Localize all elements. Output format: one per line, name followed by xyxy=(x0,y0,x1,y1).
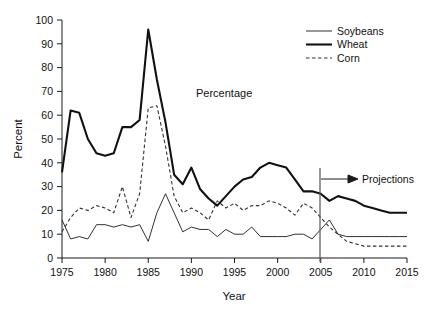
x-tick-label: 1990 xyxy=(180,266,204,278)
y-tick-label: 20 xyxy=(41,204,53,216)
projections-label: Projections xyxy=(362,173,414,185)
y-axis-ticks: 0102030405060708090100 xyxy=(35,14,62,264)
x-tick-label: 1980 xyxy=(93,266,117,278)
y-tick-label: 60 xyxy=(41,109,53,121)
x-axis-ticks: 197519801985199019952000200520102015 xyxy=(50,258,419,278)
x-axis-title: Year xyxy=(222,290,245,302)
x-tick-label: 2005 xyxy=(309,266,333,278)
percentage-label: Percentage xyxy=(196,87,252,99)
y-tick-label: 80 xyxy=(41,61,53,73)
chart-legend: SoybeansWheatCorn xyxy=(306,25,384,64)
x-tick-label: 2000 xyxy=(266,266,290,278)
y-tick-label: 10 xyxy=(41,228,53,240)
x-tick-label: 1995 xyxy=(223,266,247,278)
y-tick-label: 90 xyxy=(41,38,53,50)
y-tick-label: 100 xyxy=(35,14,53,26)
x-tick-label: 1975 xyxy=(50,266,74,278)
y-tick-label: 50 xyxy=(41,133,53,145)
legend-label-wheat: Wheat xyxy=(337,38,367,50)
y-tick-label: 30 xyxy=(41,180,53,192)
projection-arrow-head xyxy=(348,175,358,183)
projections-annotation: Projections xyxy=(320,168,414,262)
legend-label-soybeans: Soybeans xyxy=(337,25,384,37)
x-tick-label: 1985 xyxy=(137,266,161,278)
x-tick-label: 2015 xyxy=(395,266,419,278)
series-line-corn xyxy=(62,106,407,246)
y-tick-label: 0 xyxy=(47,252,53,264)
y-tick-label: 70 xyxy=(41,85,53,97)
x-tick-label: 2010 xyxy=(352,266,376,278)
y-tick-label: 40 xyxy=(41,157,53,169)
chart-figure: 0102030405060708090100 19751980198519901… xyxy=(0,0,436,315)
y-axis-title: Percent xyxy=(12,118,24,158)
line-chart-svg: 0102030405060708090100 19751980198519901… xyxy=(0,0,436,315)
legend-label-corn: Corn xyxy=(337,52,360,64)
